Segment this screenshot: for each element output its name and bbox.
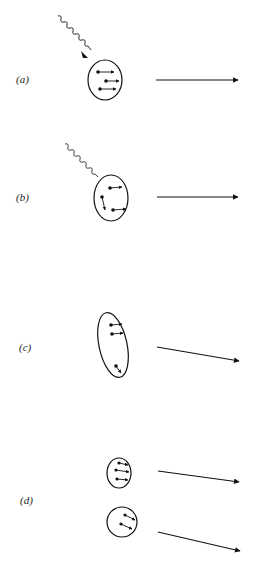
panel-label-c: (c) <box>19 342 31 353</box>
panel-a <box>58 16 238 100</box>
particles <box>96 70 119 91</box>
photon-wave-icon <box>65 144 98 177</box>
panel-label-d: (d) <box>20 495 33 506</box>
particles-lower <box>119 513 135 529</box>
panel-b <box>65 144 238 221</box>
diagram-canvas <box>0 0 266 578</box>
fragmentation-diagram: (a) (b) (c) (d) <box>0 0 266 578</box>
particles-upper <box>114 461 129 480</box>
panel-label-b: (b) <box>16 192 29 203</box>
panel-d <box>107 458 240 551</box>
velocity-arrow-d-lower <box>158 532 240 551</box>
panel-label-a: (a) <box>16 74 29 85</box>
panel-c <box>92 310 239 380</box>
fragment-circle-lower <box>107 507 137 537</box>
cluster-ellipse <box>94 175 128 221</box>
photon-wave-icon <box>58 16 91 58</box>
particles <box>109 323 123 373</box>
particles <box>100 186 126 212</box>
velocity-arrow-c <box>157 347 239 361</box>
velocity-arrow-d-upper <box>158 471 239 482</box>
cluster-ellipse-elongated <box>92 310 133 380</box>
